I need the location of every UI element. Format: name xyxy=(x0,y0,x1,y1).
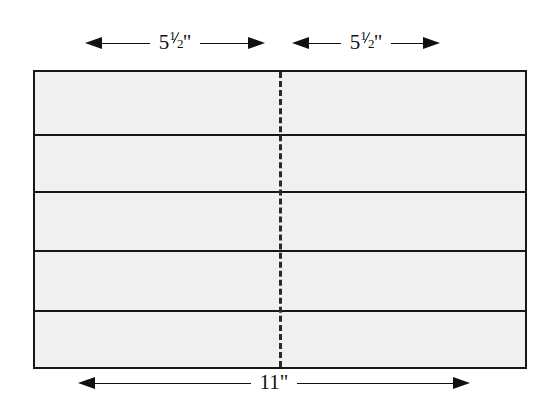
arrowhead-left-icon xyxy=(292,37,309,49)
arrowhead-right-icon xyxy=(248,37,265,49)
dimension-shaft xyxy=(297,383,453,384)
fraction-one-half: 12 xyxy=(169,35,183,48)
paper-sheet xyxy=(33,70,527,369)
dimension-top-right: 512" xyxy=(292,30,440,56)
dimension-shaft xyxy=(309,43,341,44)
arrowhead-right-icon xyxy=(423,37,440,49)
arrowhead-left-icon xyxy=(78,377,95,389)
center-fold-line xyxy=(279,72,282,367)
dimension-top-left-label: 512" xyxy=(150,32,201,53)
arrowhead-right-icon xyxy=(453,377,470,389)
dimension-bottom-label: 11" xyxy=(251,372,298,393)
dimension-shaft xyxy=(95,383,251,384)
arrowhead-left-icon xyxy=(85,37,102,49)
diagram-canvas: 512" 512" 11" xyxy=(0,0,553,415)
fraction-one-half: 12 xyxy=(360,35,374,48)
dimension-top-right-label: 512" xyxy=(341,32,392,53)
dimension-shaft xyxy=(391,43,423,44)
inch-mark: " xyxy=(280,370,289,394)
inch-mark: " xyxy=(374,30,383,54)
dimension-top-left: 512" xyxy=(85,30,265,56)
inch-mark: " xyxy=(183,30,192,54)
dimension-shaft xyxy=(200,43,248,44)
dimension-bottom: 11" xyxy=(78,370,470,396)
dimension-shaft xyxy=(102,43,150,44)
